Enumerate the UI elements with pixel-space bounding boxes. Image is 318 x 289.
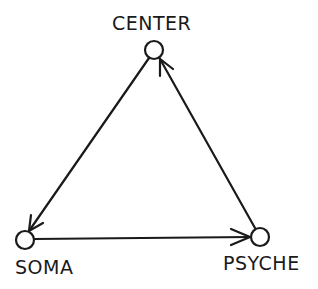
label-soma: SOMA <box>15 256 73 278</box>
label-center: CENTER <box>112 12 191 34</box>
node-center <box>145 41 163 59</box>
node-psyche <box>251 228 269 246</box>
label-psyche: PSYCHE <box>223 252 300 274</box>
triangle-diagram <box>0 0 318 289</box>
arrowhead-soma <box>29 215 43 231</box>
edge-psyche-center <box>160 59 255 228</box>
edge-center-soma <box>29 58 149 231</box>
node-soma <box>16 231 34 249</box>
edge-soma-psyche <box>34 237 250 239</box>
arrowhead-center <box>160 59 173 76</box>
